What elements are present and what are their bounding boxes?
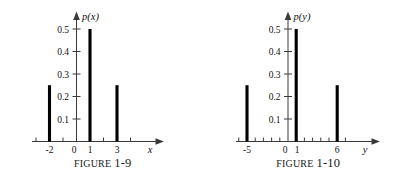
y-tick-label-0.3: 0.3 <box>57 70 69 80</box>
x-axis-arrowhead <box>156 138 165 144</box>
x-tick-label-6: 6 <box>334 145 339 155</box>
figure-1-9-caption: Figure1-9 <box>0 155 206 171</box>
y-axis-tick-labels: 0.1 0.2 0.3 0.4 0.5 <box>57 25 69 125</box>
figure-caption-number: 1-9 <box>114 156 131 170</box>
y-tick-label-0.4: 0.4 <box>268 47 280 57</box>
pmf-spikes <box>247 29 337 142</box>
x-tick-label-0: 0 <box>72 145 77 155</box>
y-tick-label-0.1: 0.1 <box>268 115 280 125</box>
figure-1-9-plot: 0.1 0.2 0.3 0.4 0.5 <box>0 0 206 155</box>
x-axis-tick-labels: -5 0 1 6 <box>243 145 340 155</box>
y-axis-label: p(y) <box>292 11 310 23</box>
y-axis-arrowhead <box>73 12 80 21</box>
figure-caption-number: 1-10 <box>317 156 341 170</box>
x-axis-ticks <box>238 138 345 142</box>
y-tick-label-0.2: 0.2 <box>57 92 69 102</box>
x-tick-label--5: -5 <box>243 145 251 155</box>
pmf-chart-y: 0.1 0.2 0.3 0.4 0.5 <box>206 0 411 155</box>
figure-1-10-caption: Figure1-10 <box>206 155 411 171</box>
figure-pair-container: 0.1 0.2 0.3 0.4 0.5 <box>0 0 411 184</box>
figure-1-10-plot: 0.1 0.2 0.3 0.4 0.5 <box>206 0 411 155</box>
y-tick-label-0.2: 0.2 <box>268 92 280 102</box>
x-tick-label-1: 1 <box>88 145 93 155</box>
y-tick-label-0.4: 0.4 <box>57 47 69 57</box>
pmf-chart-x: 0.1 0.2 0.3 0.4 0.5 <box>0 0 206 155</box>
y-tick-label-0.1: 0.1 <box>57 115 69 125</box>
figure-1-10-block: 0.1 0.2 0.3 0.4 0.5 <box>206 0 411 184</box>
x-tick-label-0: 0 <box>282 145 287 155</box>
y-axis-tick-labels: 0.1 0.2 0.3 0.4 0.5 <box>268 25 280 125</box>
x-tick-label-1: 1 <box>294 145 299 155</box>
x-tick-label--2: -2 <box>46 145 54 155</box>
x-axis-label: x <box>147 144 153 155</box>
figure-caption-word: Figure <box>74 155 111 170</box>
y-tick-label-0.3: 0.3 <box>268 70 280 80</box>
x-axis-tick-labels: -2 0 1 3 <box>46 145 120 155</box>
y-tick-label-0.5: 0.5 <box>57 25 69 35</box>
y-tick-label-0.5: 0.5 <box>268 25 280 35</box>
y-axis-arrowhead <box>284 12 291 21</box>
x-axis-label: y <box>361 144 367 155</box>
x-tick-label-3: 3 <box>115 145 120 155</box>
figure-caption-word: Figure <box>276 155 313 170</box>
figure-1-9-block: 0.1 0.2 0.3 0.4 0.5 <box>0 0 206 184</box>
y-axis-label: p(x) <box>81 11 99 23</box>
x-axis-arrowhead <box>371 138 380 144</box>
pmf-spikes <box>50 29 118 142</box>
